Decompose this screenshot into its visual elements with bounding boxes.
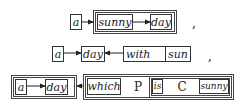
node-label: day [151,17,171,28]
node-row3-day: day [45,79,68,95]
node-label: sunny [200,82,227,91]
node-label: which [87,81,120,92]
node-row3-a: a [15,79,27,95]
node-row2-day: day [81,46,105,62]
separator-row2: , [208,49,212,63]
node-row3-C: C [175,78,189,95]
node-label: day [83,49,103,60]
node-row2-a: a [52,46,64,62]
node-label: with [126,49,150,60]
node-row3-is: is [152,79,163,94]
node-row1-sunny: sunny [97,14,133,30]
node-row2-sun: sun [165,46,191,62]
node-label: day [47,82,67,93]
node-label: is [154,82,162,91]
node-label: a [73,17,80,28]
node-row1-day: day [150,14,172,30]
separator-row1: , [192,16,196,30]
node-row3-sunny: sunny [199,79,229,94]
node-label: a [55,49,62,60]
node-label: sunny [98,17,131,28]
node-label: a [18,82,25,93]
node-row3-which: which [87,78,121,95]
node-row3-P: P [131,78,145,95]
node-label: sun [168,49,188,60]
node-row1-a: a [70,14,82,30]
